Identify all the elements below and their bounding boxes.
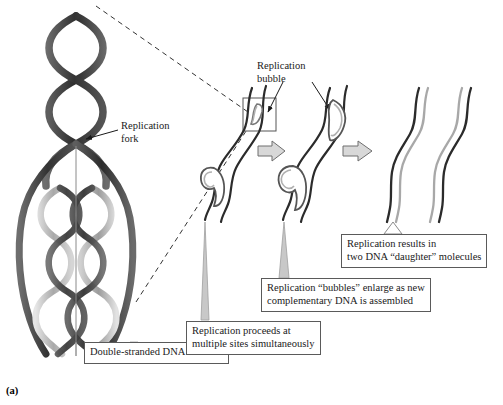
stage3-molecule1-new [396,88,428,222]
stage3-molecule2-parental [439,88,471,222]
leader-multiple-sites [201,222,209,320]
stage-3-daughter-molecules [387,88,471,222]
dashed-guide-lines [96,6,248,302]
stage-2-bubbles-enlarge [279,86,347,222]
stage-arrow-1 [258,141,285,161]
stage2-parental-strand-left [283,88,330,220]
caption-daughter-molecules: Replication results in two DNA “daughter… [341,234,487,268]
leader-daughter-molecules [384,222,402,234]
stage-1-replication-begins [201,86,266,222]
stage-arrow-2 [343,141,372,161]
replication-bubble-label: Replication bubble [257,60,305,85]
leader-bubbles-enlarge [279,222,289,278]
replication-fork-label: Replication fork [121,120,169,145]
panel-letter: (a) [6,385,18,396]
dna-double-helix [19,16,133,356]
daughter-helix-right-new-strand [81,188,117,354]
dashed-guide-lower [136,128,248,302]
dashed-guide-upper [96,6,248,112]
daughter-helix-left-new-strand [36,188,72,354]
caption-replication-proceeds-multiple-sites: Replication proceeds at multiple sites s… [186,321,321,355]
caption-bubbles-enlarge: Replication “bubbles” enlarge as new com… [261,278,431,312]
stage3-molecule1-parental [387,88,419,222]
stage3-molecule2-new [430,88,462,222]
